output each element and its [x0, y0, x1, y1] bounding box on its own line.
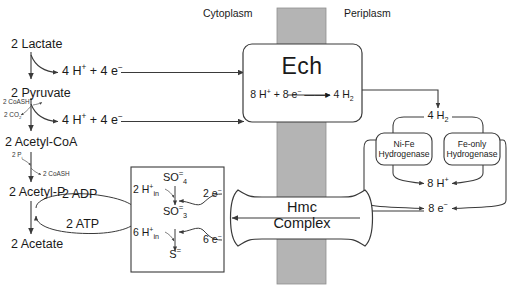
- energy-adp-label: 2 ADP: [62, 188, 97, 201]
- periplasm-label: Periplasm: [344, 8, 391, 19]
- ni-fe-line1: Ni-Fe: [393, 139, 414, 149]
- sulfate-species-sulfate: SO=4: [163, 172, 187, 184]
- cofactor-co2-output: 2 CO2: [4, 112, 21, 119]
- cofactor-coash-output: 2 CoASH: [43, 171, 70, 178]
- cofactor-coash-input: 2 CoASH: [3, 99, 30, 106]
- sulfate-species-sulfite: SO=3: [163, 206, 187, 218]
- cytoplasm-label: Cytoplasm: [203, 8, 253, 19]
- energy-atp-label: 2 ATP: [66, 218, 99, 231]
- diagram-canvas: Cytoplasm Periplasm 2 Lactate 2 Pyruvate…: [0, 0, 507, 290]
- fe-only-line2: Hydrogenase: [446, 149, 497, 159]
- sulfate-proton-input-6h: 6 H+in: [133, 227, 159, 238]
- hmc-title-line1: Hmc: [287, 199, 317, 215]
- metabolite-lactate: 2 Lactate: [11, 38, 62, 51]
- metabolite-acetate: 2 Acetate: [11, 238, 63, 251]
- hmc-complex-title: HmcComplex: [273, 199, 330, 231]
- metabolite-acetyl-coa: 2 Acetyl-CoA: [5, 136, 77, 149]
- sulfate-proton-input-2h: 2 H+in: [133, 184, 159, 195]
- periplasm-hydrogen-label: 4 H2: [427, 110, 448, 122]
- metabolite-acetyl-p: 2 Acetyl-P: [9, 186, 65, 199]
- fe-only-line1: Fe-only: [458, 139, 487, 149]
- ech-complex-title: Ech: [282, 54, 323, 78]
- hmc-title-line2: Complex: [273, 215, 330, 231]
- periplasm-electron-product: 8 e−: [428, 203, 448, 215]
- ech-reaction: 8 H+ + 8 e− ——▸ 4 H2: [250, 89, 353, 100]
- periplasm-proton-product: 8 H+: [427, 178, 448, 190]
- sulfate-electron-input-6e: 6 e−: [203, 234, 222, 245]
- cofactor-phosphate-input: 2 Pi: [12, 152, 23, 159]
- fe-only-hydrogenase-label: Fe-onlyHydrogenase: [446, 139, 497, 160]
- ni-fe-hydrogenase-label: Ni-FeHydrogenase: [378, 139, 429, 160]
- sulfate-species-sulfide: S=: [169, 249, 180, 261]
- branch-product-pyruvate: 4 H+ + 4 e−: [62, 114, 123, 127]
- branch-product-lactate: 4 H+ + 4 e−: [62, 65, 123, 78]
- ni-fe-line2: Hydrogenase: [378, 149, 429, 159]
- sulfate-electron-input-2e: 2 e−: [203, 188, 222, 199]
